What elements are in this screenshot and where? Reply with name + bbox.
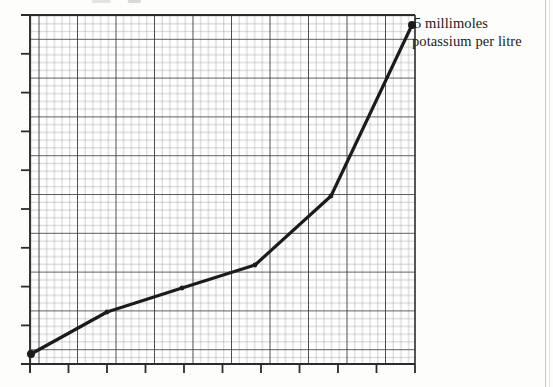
data-point-marker	[105, 310, 110, 315]
data-point-marker	[253, 263, 258, 268]
series-label-line-2: potassium per litre	[412, 33, 522, 50]
grid-area	[30, 15, 415, 364]
data-point-marker	[329, 194, 334, 199]
graph-plot	[0, 0, 553, 387]
figure-page: 5 millimoles potassium per litre	[0, 0, 553, 387]
page-edge-line-outer	[549, 0, 550, 387]
y-axis-ticks	[21, 54, 30, 326]
page-edge-line	[545, 0, 546, 387]
series-label-line-1: 5 millimoles	[414, 15, 488, 32]
data-point-marker	[180, 286, 185, 291]
data-point-marker	[27, 350, 35, 358]
x-axis-ticks	[30, 364, 415, 373]
